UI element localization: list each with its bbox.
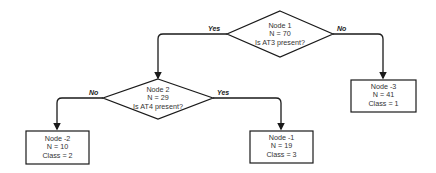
- edge-node1-yes: [158, 34, 227, 78]
- leaf-minus3-class: Class = 1: [351, 100, 416, 108]
- leaf-minus1-class: Class = 3: [250, 151, 313, 159]
- edge-node1-no: [333, 34, 383, 78]
- leaf-node-minus2-label: Node -2 N = 10 Class = 2: [26, 135, 89, 160]
- edge-label-node2-no: No: [89, 89, 98, 96]
- edge-label-node2-yes: Yes: [217, 89, 229, 96]
- node1-question: Is AT3 present?: [240, 39, 320, 47]
- node2-question: Is AT4 present?: [118, 103, 198, 111]
- leaf-minus2-class: Class = 2: [26, 152, 89, 160]
- edge-node2-yes: [213, 98, 281, 129]
- leaf-node-minus1-label: Node -1 N = 19 Class = 3: [250, 134, 313, 159]
- node1-label: Node 1 N = 70 Is AT3 present?: [240, 22, 320, 47]
- edge-label-node1-yes: Yes: [208, 25, 220, 32]
- node2-label: Node 2 N = 29 Is AT4 present?: [118, 86, 198, 111]
- edge-label-node1-no: No: [337, 25, 346, 32]
- edge-node2-no: [57, 98, 103, 129]
- leaf-node-minus3-label: Node -3 N = 41 Class = 1: [351, 83, 416, 108]
